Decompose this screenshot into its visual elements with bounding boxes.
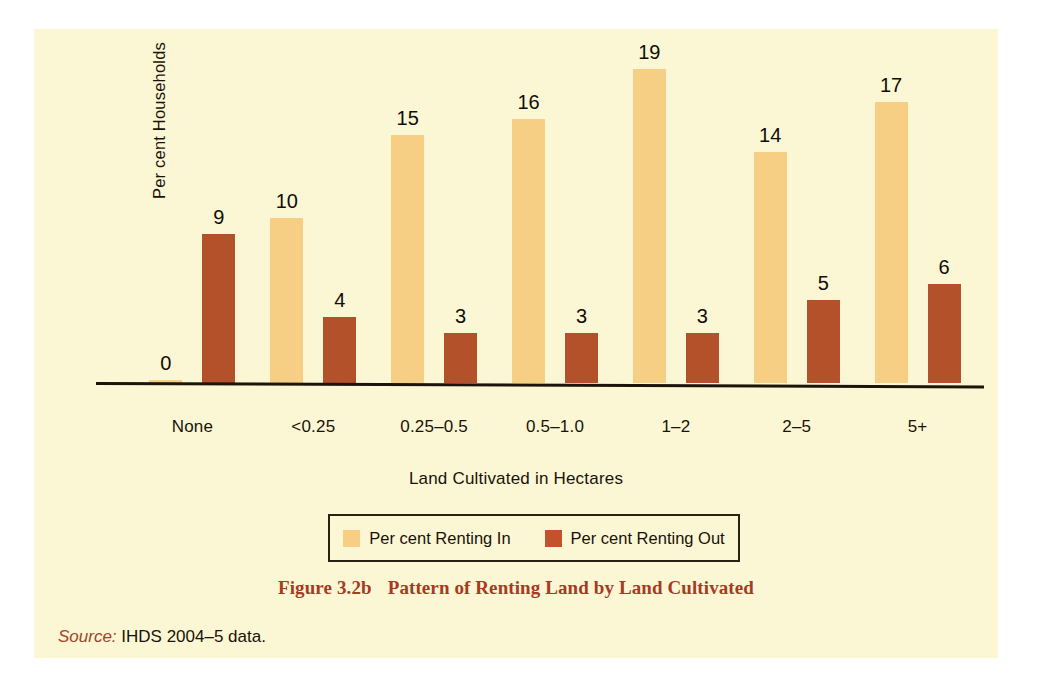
bars-region: 09104153163193145176	[132, 39, 978, 383]
x-tick-label: <0.25	[253, 417, 374, 437]
bar-value-label: 3	[576, 306, 587, 326]
bar-value-label: 9	[213, 207, 224, 227]
x-tick-label: 5+	[857, 417, 978, 437]
bar-group: 176	[857, 39, 978, 383]
bar-rect[interactable]	[444, 333, 477, 383]
bar-group: 145	[736, 39, 857, 383]
figure-panel: Per cent Households 09104153163193145176…	[34, 29, 998, 658]
bar-rect[interactable]	[928, 284, 961, 383]
bar-value-label: 14	[759, 125, 781, 145]
x-axis-title: Land Cultivated in Hectares	[34, 469, 998, 489]
chart-legend: Per cent Renting InPer cent Renting Out	[328, 514, 740, 562]
bar-renting-out[interactable]: 3	[686, 39, 719, 383]
legend-swatch-renting-out	[545, 530, 562, 547]
source-label: Source:	[58, 627, 117, 646]
bar-value-label: 15	[397, 108, 419, 128]
bar-value-label: 5	[818, 273, 829, 293]
bar-group: 153	[374, 39, 495, 383]
bar-renting-in[interactable]: 0	[149, 39, 182, 383]
bar-value-label: 3	[697, 306, 708, 326]
legend-label: Per cent Renting Out	[571, 529, 725, 548]
legend-swatch-renting-in	[343, 530, 360, 547]
bar-renting-out[interactable]: 3	[444, 39, 477, 383]
plot-area: Per cent Households 09104153163193145176	[96, 39, 978, 399]
bar-renting-in[interactable]: 17	[875, 39, 908, 383]
bar-rect[interactable]	[512, 119, 545, 383]
bar-value-label: 17	[880, 75, 902, 95]
figure-caption: Figure 3.2bPattern of Renting Land by La…	[34, 577, 998, 599]
legend-entry[interactable]: Per cent Renting In	[343, 529, 510, 548]
bar-rect[interactable]	[391, 135, 424, 383]
bar-renting-out[interactable]: 6	[928, 39, 961, 383]
figure-caption-number: Figure 3.2b	[278, 577, 372, 598]
figure-caption-text: Pattern of Renting Land by Land Cultivat…	[388, 577, 754, 598]
legend-label: Per cent Renting In	[369, 529, 510, 548]
bar-rect[interactable]	[754, 152, 787, 383]
bar-value-label: 3	[455, 306, 466, 326]
bar-rect[interactable]	[633, 69, 666, 383]
bar-value-label: 0	[160, 353, 171, 373]
bar-renting-out[interactable]: 3	[565, 39, 598, 383]
bar-group: 193	[615, 39, 736, 383]
bar-renting-out[interactable]: 9	[202, 39, 235, 383]
bar-value-label: 10	[276, 191, 298, 211]
legend-entry[interactable]: Per cent Renting Out	[545, 529, 725, 548]
bar-rect[interactable]	[565, 333, 598, 383]
bar-value-label: 6	[939, 257, 950, 277]
source-text: IHDS 2004–5 data.	[121, 627, 266, 646]
bar-renting-in[interactable]: 14	[754, 39, 787, 383]
bar-rect[interactable]	[686, 333, 719, 383]
x-axis-tick-labels: None<0.250.25–0.50.5–1.01–22–55+	[132, 417, 978, 437]
bar-renting-in[interactable]: 10	[270, 39, 303, 383]
bar-renting-in[interactable]: 19	[633, 39, 666, 383]
bar-renting-in[interactable]: 16	[512, 39, 545, 383]
bar-rect[interactable]	[202, 234, 235, 383]
x-tick-label: 2–5	[736, 417, 857, 437]
source-line: Source: IHDS 2004–5 data.	[58, 627, 266, 647]
bar-group: 09	[132, 39, 253, 383]
x-tick-label: None	[132, 417, 253, 437]
x-tick-label: 0.5–1.0	[495, 417, 616, 437]
bar-rect[interactable]	[270, 218, 303, 383]
bar-renting-out[interactable]: 5	[807, 39, 840, 383]
bar-rect[interactable]	[323, 317, 356, 383]
bar-value-label: 19	[638, 42, 660, 62]
bar-rect[interactable]	[807, 300, 840, 383]
bar-renting-in[interactable]: 15	[391, 39, 424, 383]
bar-group: 104	[253, 39, 374, 383]
bar-value-label: 16	[517, 92, 539, 112]
x-tick-label: 0.25–0.5	[374, 417, 495, 437]
bar-renting-out[interactable]: 4	[323, 39, 356, 383]
bar-rect[interactable]	[875, 102, 908, 383]
bar-value-label: 4	[334, 290, 345, 310]
x-tick-label: 1–2	[615, 417, 736, 437]
bar-group: 163	[495, 39, 616, 383]
